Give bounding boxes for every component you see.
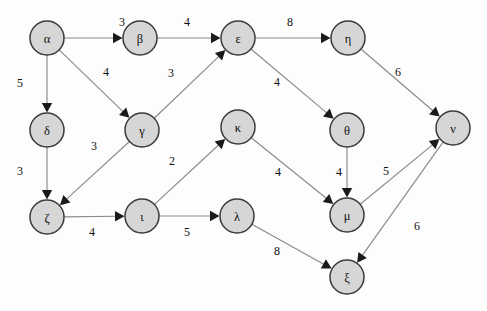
edge-weight-kappa-mu: 4 — [275, 165, 281, 179]
edge-line-alpha-gamma — [59, 50, 124, 113]
node-delta[interactable]: δ — [30, 113, 64, 147]
edge-beta-epsilon — [157, 33, 221, 43]
node-theta[interactable]: θ — [330, 113, 364, 147]
edge-weight-theta-mu: 4 — [336, 165, 342, 179]
edge-line-zeta-iota — [64, 216, 117, 217]
node-label-epsilon: ε — [235, 32, 240, 46]
edge-weight-eta-nu: 6 — [395, 65, 401, 79]
node-label-xi: ξ — [344, 271, 350, 285]
edge-weight-alpha-beta: 3 — [119, 15, 125, 29]
edge-alpha-beta — [64, 33, 123, 43]
edge-epsilon-eta — [255, 33, 331, 43]
edge-gamma-epsilon — [154, 50, 225, 118]
edge-theta-mu — [342, 147, 352, 198]
edge-weight-gamma-zeta: 3 — [91, 139, 97, 153]
edge-arrowhead-eta-nu — [429, 106, 440, 116]
node-nu[interactable]: ν — [436, 111, 470, 145]
edges-layer — [42, 33, 443, 269]
node-label-mu: μ — [344, 209, 351, 223]
edge-epsilon-theta — [251, 49, 334, 119]
node-beta[interactable]: β — [123, 21, 157, 55]
node-label-zeta: ζ — [44, 211, 49, 225]
edge-arrowhead-iota-lambda — [210, 211, 220, 221]
edge-kappa-mu — [251, 138, 333, 204]
edge-nu-xi — [357, 142, 443, 263]
edge-line-kappa-mu — [251, 138, 327, 200]
node-label-beta: β — [137, 32, 143, 46]
edge-weight-zeta-iota: 4 — [89, 225, 95, 239]
graph-canvas: 348543334642544586 αβεηδγκθνζιλμξ — [0, 0, 487, 311]
edge-lambda-xi — [252, 224, 332, 268]
node-label-kappa: κ — [235, 121, 242, 135]
edge-line-eta-nu — [361, 49, 434, 112]
edge-arrowhead-theta-mu — [342, 188, 352, 198]
edge-weight-epsilon-theta: 4 — [274, 75, 280, 89]
node-label-eta: η — [345, 32, 352, 46]
edge-alpha-gamma — [59, 50, 129, 118]
edge-line-iota-kappa — [154, 144, 219, 204]
edge-line-gamma-zeta — [65, 141, 129, 200]
node-label-alpha: α — [44, 32, 51, 46]
edge-weight-lambda-xi: 8 — [274, 244, 280, 258]
node-label-gamma: γ — [138, 124, 145, 138]
node-gamma[interactable]: γ — [125, 113, 159, 147]
edge-line-epsilon-theta — [251, 49, 328, 114]
edge-arrowhead-nu-xi — [357, 252, 367, 263]
edge-weight-alpha-gamma: 4 — [103, 65, 109, 79]
edge-weight-iota-kappa: 2 — [169, 154, 175, 168]
edge-weight-gamma-epsilon: 3 — [168, 66, 174, 80]
edge-weight-beta-epsilon: 4 — [184, 15, 190, 29]
node-xi[interactable]: ξ — [330, 260, 364, 294]
edge-line-gamma-epsilon — [154, 55, 220, 118]
node-zeta[interactable]: ζ — [30, 200, 64, 234]
node-lambda[interactable]: λ — [220, 199, 254, 233]
edge-arrowhead-alpha-delta — [42, 103, 52, 113]
edge-alpha-delta — [42, 55, 52, 113]
edge-eta-nu — [361, 49, 440, 117]
edge-weight-iota-lambda: 5 — [184, 225, 190, 239]
node-alpha[interactable]: α — [30, 21, 64, 55]
node-label-lambda: λ — [234, 210, 240, 224]
edge-arrowhead-mu-nu — [429, 139, 440, 149]
edge-arrowhead-delta-zeta — [42, 190, 52, 200]
edge-line-nu-xi — [361, 142, 443, 257]
node-eta[interactable]: η — [331, 21, 365, 55]
edge-delta-zeta — [42, 147, 52, 200]
edge-arrowhead-epsilon-theta — [323, 109, 334, 119]
edge-mu-nu — [360, 139, 439, 204]
node-iota[interactable]: ι — [125, 199, 159, 233]
node-label-nu: ν — [450, 122, 456, 136]
edge-iota-lambda — [159, 211, 220, 221]
edge-arrowhead-zeta-iota — [115, 211, 125, 221]
edge-weight-delta-zeta: 3 — [17, 164, 23, 178]
edge-weight-epsilon-eta: 8 — [287, 15, 293, 29]
edge-line-lambda-xi — [252, 224, 325, 265]
edge-line-mu-nu — [360, 144, 434, 204]
edge-weight-mu-nu: 5 — [383, 164, 389, 178]
edge-arrowhead-kappa-mu — [323, 194, 334, 204]
graph-svg: 348543334642544586 αβεηδγκθνζιλμξ — [0, 0, 487, 311]
edge-arrowhead-beta-epsilon — [211, 33, 221, 43]
edge-iota-kappa — [154, 139, 225, 205]
edge-zeta-iota — [64, 211, 125, 221]
edge-weight-alpha-delta: 5 — [17, 76, 23, 90]
edge-weight-nu-xi: 6 — [414, 219, 420, 233]
edge-arrowhead-alpha-beta — [113, 33, 123, 43]
nodes-layer: αβεηδγκθνζιλμξ — [30, 21, 470, 294]
node-epsilon[interactable]: ε — [221, 21, 255, 55]
node-label-delta: δ — [44, 124, 50, 138]
edge-arrowhead-epsilon-eta — [321, 33, 331, 43]
node-label-theta: θ — [344, 124, 350, 138]
node-kappa[interactable]: κ — [221, 110, 255, 144]
node-mu[interactable]: μ — [330, 198, 364, 232]
